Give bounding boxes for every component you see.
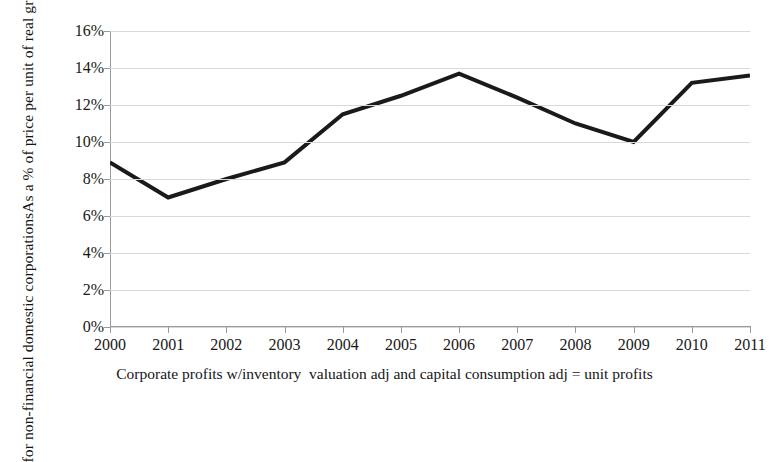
y-axis-tick-mark — [104, 179, 110, 180]
gridline — [110, 142, 750, 143]
x-axis-tick-label: 2004 — [313, 336, 373, 354]
gridline — [110, 179, 750, 180]
y-axis-tick-label: 12% — [52, 97, 104, 113]
x-axis-tick-mark — [750, 327, 751, 333]
x-axis-title: Corporate profits w/inventory valuation … — [0, 364, 769, 384]
x-axis-tick-mark — [459, 327, 460, 333]
y-axis-tick-mark — [104, 105, 110, 106]
gridline — [110, 216, 750, 217]
x-axis-tick-mark — [517, 327, 518, 333]
x-axis-tick-label: 2006 — [429, 336, 489, 354]
y-axis-tick-label: 10% — [52, 134, 104, 150]
x-axis-tick-mark — [110, 327, 111, 333]
x-axis-tick-mark — [575, 327, 576, 333]
y-axis-tick-mark — [104, 216, 110, 217]
x-axis-tick-label: 2010 — [662, 336, 722, 354]
y-axis-tick-label: 14% — [52, 60, 104, 76]
x-axis-tick-mark — [168, 327, 169, 333]
x-axis-tick-mark — [401, 327, 402, 333]
x-axis-tick-label: 2008 — [545, 336, 605, 354]
y-axis-title-line-1: As a % of price per unit of real gross v… — [17, 0, 38, 213]
y-axis-tick-mark — [104, 142, 110, 143]
y-axis-tick-label: 0% — [52, 319, 104, 335]
y-axis-tick-label: 16% — [52, 23, 104, 39]
gridline — [110, 290, 750, 291]
y-axis-tick-mark — [104, 253, 110, 254]
gridline — [110, 327, 750, 328]
x-axis-tick-label: 2003 — [255, 336, 315, 354]
y-axis-tick-label: 2% — [52, 282, 104, 298]
y-axis-tick-label: 6% — [52, 208, 104, 224]
gridline — [110, 253, 750, 254]
x-axis-tick-label: 2001 — [138, 336, 198, 354]
y-axis-tick-mark — [104, 68, 110, 69]
y-axis-tick-mark — [104, 290, 110, 291]
x-axis-tick-label: 2007 — [487, 336, 547, 354]
plot-area — [110, 31, 750, 327]
x-axis-tick-mark — [343, 327, 344, 333]
y-axis-tick-mark — [104, 31, 110, 32]
x-axis-tick-mark — [634, 327, 635, 333]
x-axis-tick-mark — [285, 327, 286, 333]
y-axis-tick-label: 4% — [52, 245, 104, 261]
x-axis-tick-label: 2002 — [196, 336, 256, 354]
gridline — [110, 68, 750, 69]
x-axis-tick-mark — [692, 327, 693, 333]
gridline — [110, 105, 750, 106]
x-axis-tick-label: 2009 — [604, 336, 664, 354]
x-axis-tick-label: 2011 — [720, 336, 769, 354]
y-axis-tick-label: 8% — [52, 171, 104, 187]
gridline — [110, 31, 750, 32]
x-axis-tick-label: 2005 — [371, 336, 431, 354]
y-axis-tick-labels: 0%2%4%6%8%10%12%14%16% — [48, 0, 104, 390]
x-axis-tick-label: 2000 — [80, 336, 140, 354]
x-axis-tick-labels: 2000200120022003200420052006200720082009… — [0, 336, 769, 358]
x-axis-tick-mark — [226, 327, 227, 333]
y-axis-title: As a % of price per unit of real gross v… — [4, 11, 50, 351]
